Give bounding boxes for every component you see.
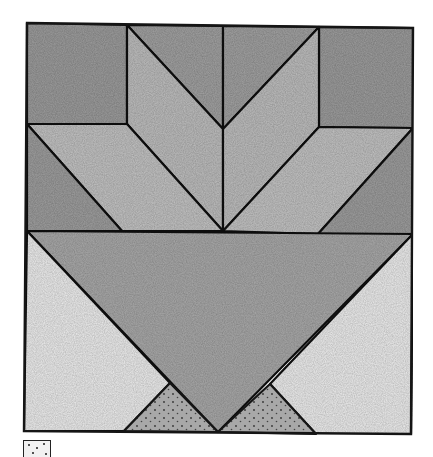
top-right-square <box>319 27 413 128</box>
legend-swatch-dotted <box>23 440 51 457</box>
legend <box>23 440 59 457</box>
top-left-square <box>27 23 127 124</box>
